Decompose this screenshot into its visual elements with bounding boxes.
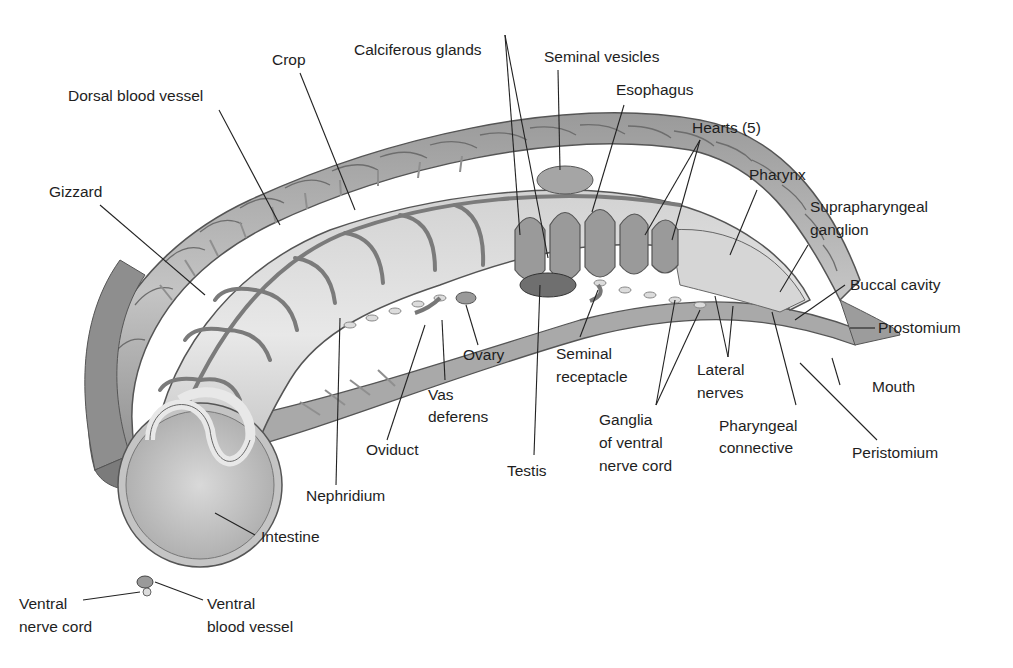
label-oviduct: Oviduct	[366, 440, 419, 459]
label-pharyngeal-connective: Pharyngealconnective	[719, 415, 797, 459]
label-intestine: Intestine	[261, 527, 320, 546]
testis-organ	[520, 273, 576, 297]
ovary-organ	[456, 292, 476, 304]
label-ovary: Ovary	[463, 345, 504, 364]
label-nephridium: Nephridium	[306, 486, 385, 505]
label-lateral-nerves: Lateralnerves	[697, 358, 744, 404]
ventral-nerve-cord-organ	[143, 588, 151, 596]
label-hearts: Hearts (5)	[692, 118, 761, 137]
ventral-blood-vessel-organ	[137, 576, 153, 588]
label-peristomium: Peristomium	[852, 443, 938, 462]
label-ventral-nerve-cord: Ventralnerve cord	[19, 592, 92, 638]
label-seminal-vesicles: Seminal vesicles	[544, 47, 659, 66]
label-prostomium: Prostomium	[878, 318, 961, 337]
label-mouth: Mouth	[872, 377, 915, 396]
label-dorsal-blood-vessel: Dorsal blood vessel	[68, 86, 203, 105]
label-ventral-blood-vessel: Ventralblood vessel	[207, 592, 293, 638]
label-crop: Crop	[272, 50, 306, 69]
label-suprapharyngeal-ganglion: Suprapharyngealganglion	[810, 195, 928, 241]
seminal-vesicle	[537, 166, 593, 194]
label-esophagus: Esophagus	[616, 80, 694, 99]
label-pharynx: Pharynx	[749, 165, 806, 184]
label-gizzard: Gizzard	[49, 182, 102, 201]
seminal-receptacle-organ	[590, 285, 601, 301]
label-testis: Testis	[507, 461, 547, 480]
label-buccal-cavity: Buccal cavity	[850, 275, 940, 294]
label-seminal-receptacle: Seminalreceptacle	[556, 342, 628, 388]
label-vas-deferens: Vasdeferens	[428, 384, 488, 428]
label-calciferous-glands: Calciferous glands	[354, 40, 482, 59]
label-ganglia-ventral-nerve-cord: Gangliaof ventralnerve cord	[599, 408, 672, 477]
